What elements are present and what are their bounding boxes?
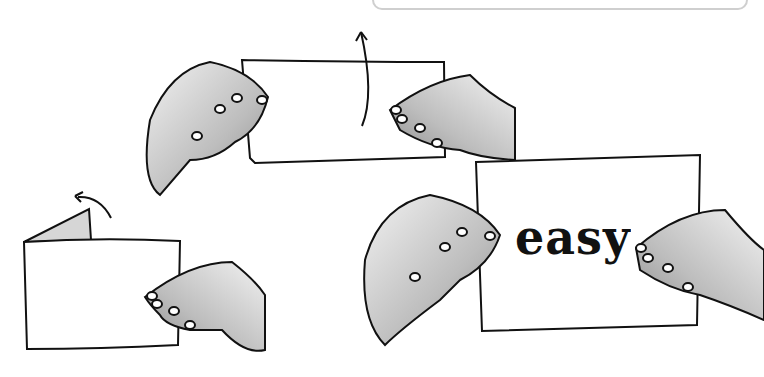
- folding-illustration: easy: [0, 0, 764, 377]
- panel-1: [24, 192, 265, 351]
- illustration-drawing: [0, 0, 764, 377]
- panel-2: [147, 32, 515, 195]
- revealed-word: easy: [515, 209, 631, 266]
